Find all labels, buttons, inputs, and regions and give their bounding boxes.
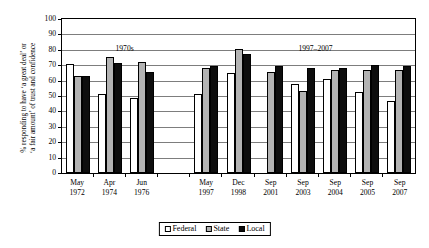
bar-group (319, 19, 351, 173)
bar-local (243, 54, 251, 173)
bar-state (74, 76, 82, 173)
x-axis-tick (221, 173, 222, 177)
x-axis-label-month: Jun (126, 178, 158, 188)
bar-federal (66, 64, 74, 173)
x-axis-label-year: 1997 (190, 188, 222, 198)
legend-label: Local (246, 224, 264, 234)
bar-group-bars (158, 19, 190, 173)
bar-federal (355, 92, 363, 173)
y-axis-tick-label: 30 (48, 123, 56, 131)
x-axis-tick (254, 173, 255, 177)
y-axis-tick-label: 40 (48, 108, 56, 116)
bar-group-bars (383, 19, 415, 173)
x-axis-label-year: 2003 (287, 188, 319, 198)
bar-state (299, 91, 307, 173)
bar-group-bars (319, 19, 351, 173)
bar-federal (98, 94, 106, 173)
bar-group-bars (190, 19, 222, 173)
legend-item-federal: Federal (164, 224, 196, 234)
bar-groups (62, 19, 415, 173)
x-axis-label: Sep2007 (384, 178, 416, 208)
bar-state (331, 70, 339, 173)
annotation-label: 1970s (115, 44, 133, 53)
y-axis-title-line2: ‘a fair amount’ of trust and confidence (29, 18, 38, 178)
x-axis-label: May1997 (190, 178, 222, 208)
y-axis-tick-label: 10 (48, 154, 56, 162)
bar-state (267, 72, 275, 173)
bar-local (403, 66, 411, 173)
bar-group (222, 19, 254, 173)
x-axis-label-month: Sep (287, 178, 319, 188)
y-axis-tick-label: 50 (48, 92, 56, 100)
legend-item-local: Local (238, 224, 264, 234)
y-axis-tick-label: 70 (48, 61, 56, 69)
x-axis-label: Dec1998 (222, 178, 254, 208)
plot-area: 1009080706050403020100 1970s1997–2007 (61, 18, 416, 174)
x-axis-label-month: Apr (93, 178, 125, 188)
y-axis-tick-label: 60 (48, 77, 56, 85)
bar-local (307, 68, 315, 173)
bar-group-bars (222, 19, 254, 173)
bar-local (82, 76, 90, 173)
bar-group (190, 19, 222, 173)
bar-group-bars (126, 19, 158, 173)
bar-group-bars (62, 19, 94, 173)
x-axis-label-year: 1976 (126, 188, 158, 198)
bar-federal (194, 94, 202, 173)
bar-group (287, 19, 319, 173)
x-axis-label: Sep2001 (255, 178, 287, 208)
x-axis-tick (382, 173, 383, 177)
bar-group (158, 19, 190, 173)
bar-federal (387, 101, 395, 173)
y-axis-tick-label: 80 (48, 46, 56, 54)
x-axis-label-month: Sep (319, 178, 351, 188)
bar-local (275, 66, 283, 173)
bar-federal (130, 98, 138, 173)
x-axis-tick (125, 173, 126, 177)
x-axis-tick (157, 173, 158, 177)
x-axis-tick (93, 173, 94, 177)
bar-group (126, 19, 158, 173)
x-axis-label: Apr1974 (93, 178, 125, 208)
bar-state (235, 49, 243, 173)
x-axis-label: Jun1976 (126, 178, 158, 208)
bar-chart: % responding to have ‘a great deal’ or ‘… (0, 0, 429, 248)
bar-state (363, 70, 371, 173)
bar-group-bars (351, 19, 383, 173)
bar-local (146, 72, 154, 173)
x-axis-label-year: 2007 (384, 188, 416, 198)
bar-local (114, 63, 122, 173)
bar-group-bars (287, 19, 319, 173)
annotation-label: 1997–2007 (298, 44, 332, 53)
x-axis-label-month: Sep (351, 178, 383, 188)
x-axis-tick (286, 173, 287, 177)
legend-label: State (213, 224, 229, 234)
x-axis-tick (318, 173, 319, 177)
legend-swatch-federal (164, 226, 170, 232)
bar-group (94, 19, 126, 173)
x-axis-label-year: 1998 (222, 188, 254, 198)
bar-state (106, 57, 114, 173)
legend-swatch-state (205, 226, 211, 232)
bar-state (395, 70, 403, 173)
bar-group-bars (255, 19, 287, 173)
x-axis-label: Sep2005 (351, 178, 383, 208)
bar-local (371, 65, 379, 173)
x-axis-label: May1972 (61, 178, 93, 208)
y-axis-tick-label: 90 (48, 31, 56, 39)
legend-label: Federal (172, 224, 196, 234)
bar-group-bars (94, 19, 126, 173)
x-axis-label: Sep2003 (287, 178, 319, 208)
y-axis-tick-label: 20 (48, 138, 56, 146)
y-axis-tick-label: 100 (45, 15, 56, 23)
chart-legend: FederalStateLocal (158, 222, 270, 236)
x-axis-label-year: 1974 (93, 188, 125, 198)
x-axis-tick (350, 173, 351, 177)
x-axis-label: Sep2004 (319, 178, 351, 208)
x-axis-label-year: 1972 (61, 188, 93, 198)
y-axis-tick (58, 173, 62, 174)
bar-group (383, 19, 415, 173)
x-axis-label-month: Dec (222, 178, 254, 188)
y-axis-title-line1: % responding to have ‘a great deal’ or (20, 18, 29, 178)
x-axis-label-year: 2005 (351, 188, 383, 198)
